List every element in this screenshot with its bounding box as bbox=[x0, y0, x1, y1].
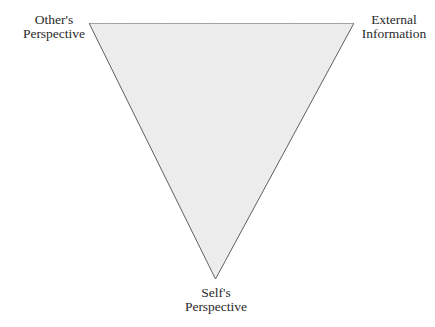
label-line: Perspective bbox=[18, 27, 90, 41]
vertex-label-selfs-perspective: Self's Perspective bbox=[176, 286, 256, 314]
inverted-triangle bbox=[89, 23, 354, 279]
label-line: Other's bbox=[18, 13, 90, 27]
triangle-diagram bbox=[0, 0, 435, 327]
label-line: Perspective bbox=[176, 300, 256, 314]
label-line: Information bbox=[353, 27, 435, 41]
diagram-canvas bbox=[0, 0, 435, 327]
vertex-label-external-information: External Information bbox=[353, 13, 435, 41]
label-line: External bbox=[353, 13, 435, 27]
vertex-label-others-perspective: Other's Perspective bbox=[18, 13, 90, 41]
label-line: Self's bbox=[176, 286, 256, 300]
